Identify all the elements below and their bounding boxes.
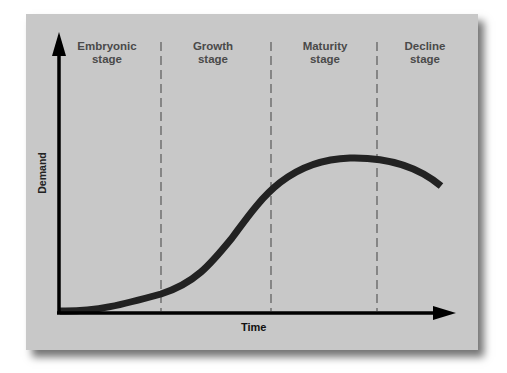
y-axis-label: Demand	[36, 152, 48, 193]
stage-label-line2: stage	[62, 53, 152, 66]
stage-label-growth: Growth stage	[168, 40, 258, 66]
stage-label-decline: Decline stage	[380, 40, 470, 66]
x-axis-arrow-icon	[433, 306, 456, 320]
stage-label-line1: Decline	[380, 40, 470, 53]
stage-label-embryonic: Embryonic stage	[62, 40, 152, 66]
stage-label-line1: Maturity	[280, 40, 370, 53]
stage-label-line1: Growth	[168, 40, 258, 53]
stage-label-maturity: Maturity stage	[280, 40, 370, 66]
demand-curve	[60, 158, 441, 311]
x-axis-label: Time	[241, 321, 266, 333]
stage-label-line2: stage	[280, 53, 370, 66]
stage-label-line1: Embryonic	[62, 40, 152, 53]
stage-label-line2: stage	[168, 53, 258, 66]
stage-label-line2: stage	[380, 53, 470, 66]
